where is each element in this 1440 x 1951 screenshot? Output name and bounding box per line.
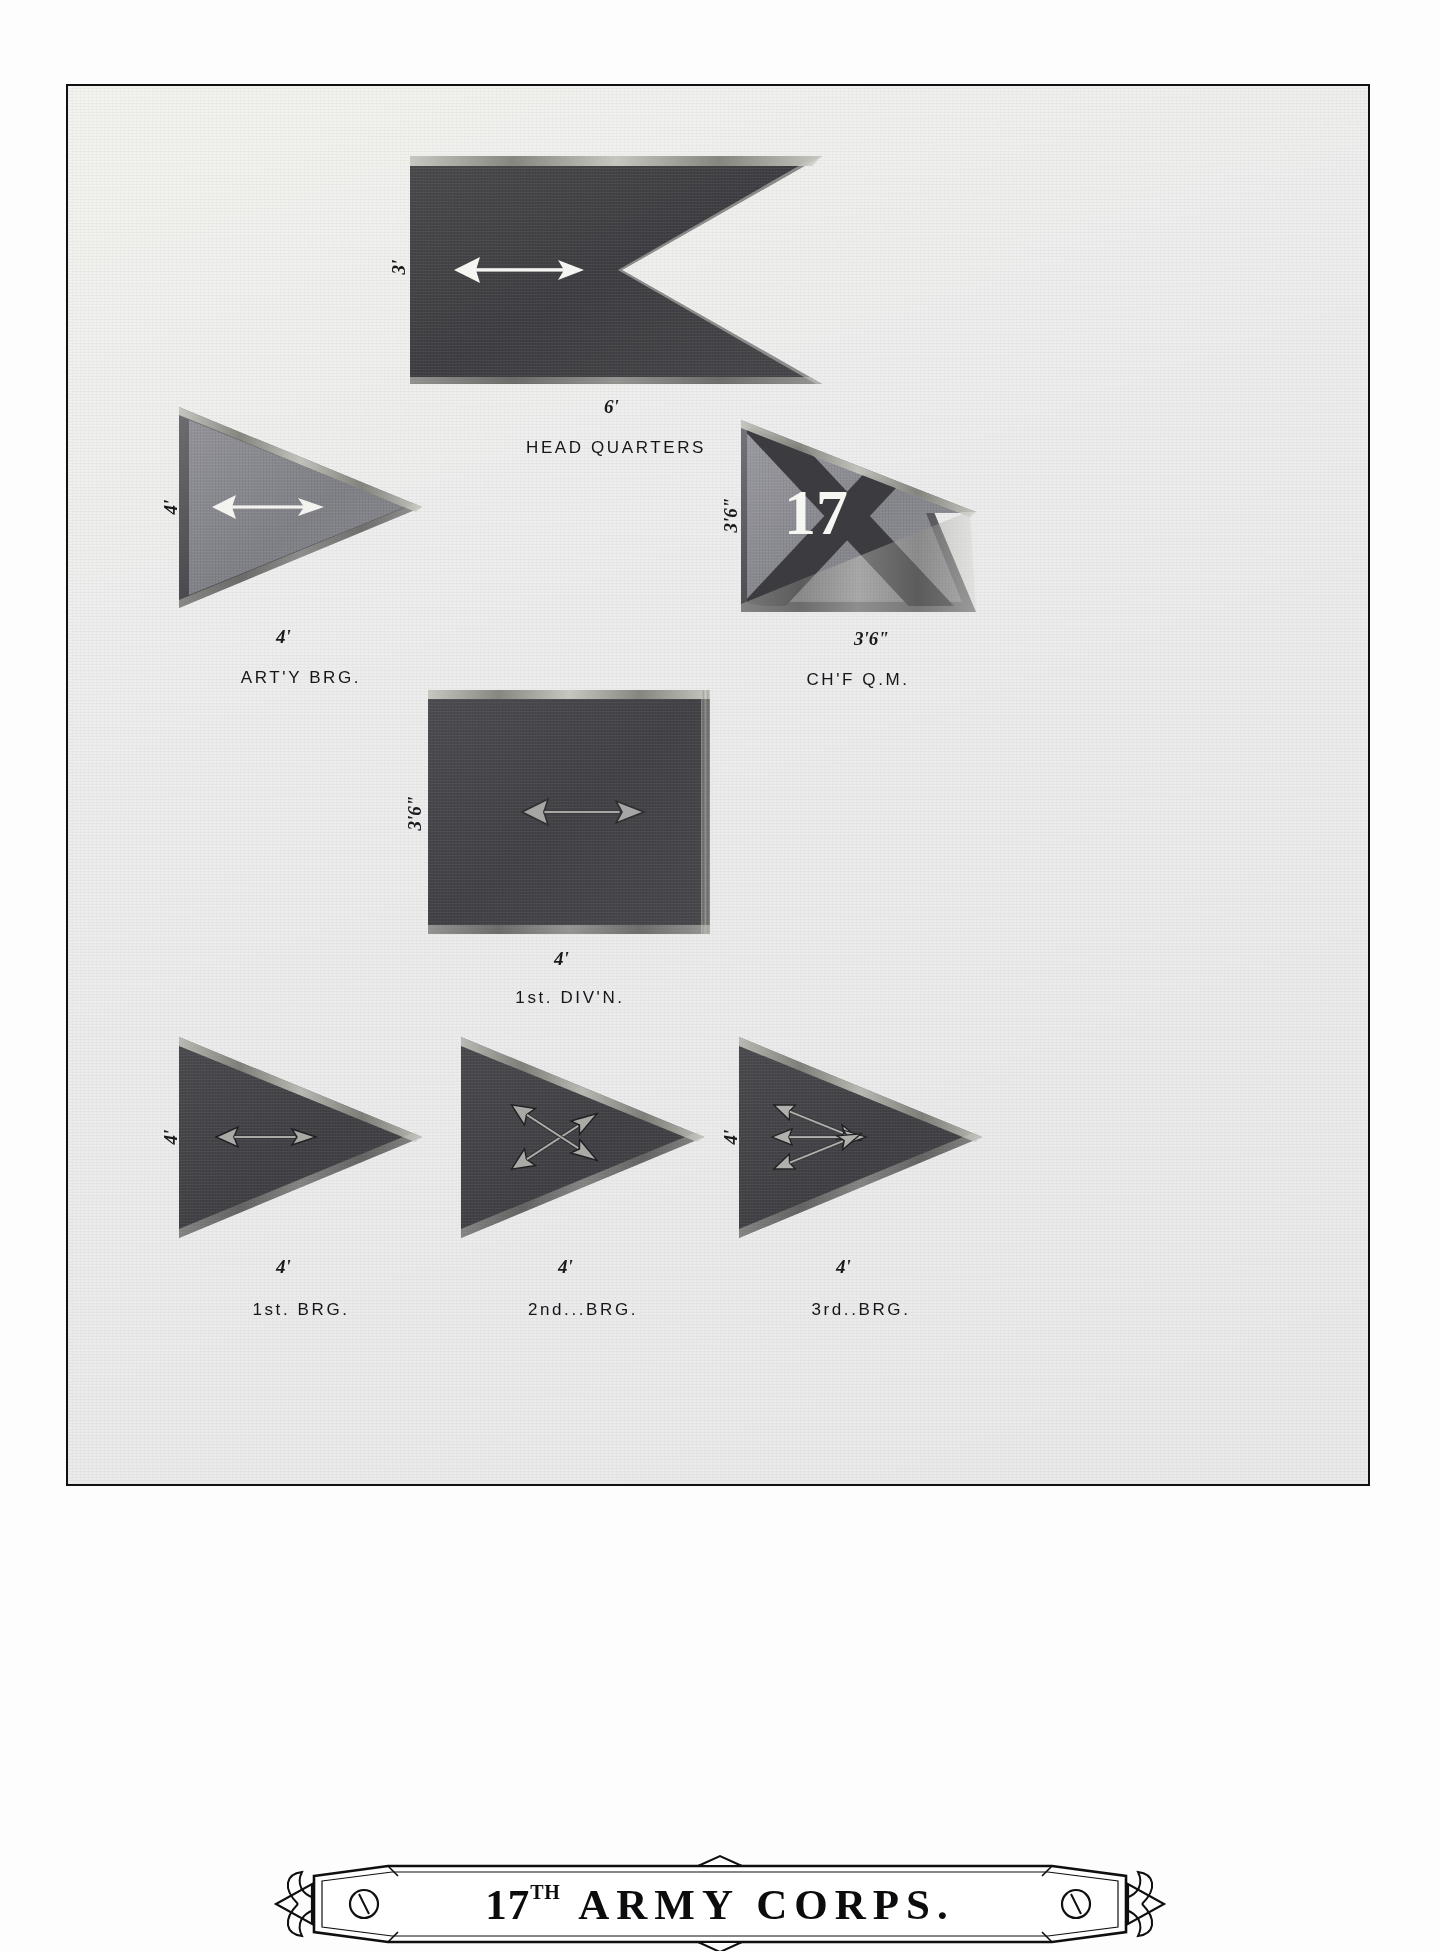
corps-numeral: 17 xyxy=(784,477,848,548)
caption-chief-quartermaster: CH'F Q.M. xyxy=(738,670,978,690)
dim-fly-first-brigade: 4' xyxy=(276,1256,291,1278)
first-brigade-flag xyxy=(176,1034,426,1244)
figure-artillery-brigade: 4' 4' ART'Y BRG. xyxy=(176,404,426,694)
caption-first-brigade: 1st. BRG. xyxy=(176,1300,426,1320)
caption-third-brigade: 3rd..BRG. xyxy=(736,1300,986,1320)
plate-title-banner: 17 TH ARMY CORPS. xyxy=(268,1858,1172,1950)
dim-fly-head-quarters: 6' xyxy=(604,396,619,418)
dim-hoist-first-brigade: 4' xyxy=(160,1130,182,1145)
dim-fly-third-brigade: 4' xyxy=(836,1256,851,1278)
dim-hoist-head-quarters: 3' xyxy=(388,260,410,275)
dim-hoist-third-brigade: 4' xyxy=(720,1130,742,1145)
dim-fly-first-division: 4' xyxy=(554,948,569,970)
third-brigade-flag xyxy=(736,1034,986,1244)
dim-fly-second-brigade: 4' xyxy=(558,1256,573,1278)
figure-third-brigade: 4' 4' 3rd..BRG. xyxy=(736,1034,986,1324)
chief-quartermaster-flag: 17 xyxy=(738,416,978,616)
first-division-flag xyxy=(424,684,716,940)
banner-ornament xyxy=(268,1858,1172,1950)
caption-second-brigade: 2nd...BRG. xyxy=(458,1300,708,1320)
figure-chief-quartermaster: 17 3'6" 3'6" CH'F Q.M. xyxy=(738,416,978,706)
figure-first-division: 3'6" 4' 1st. DIV'N. xyxy=(424,684,716,1014)
second-brigade-flag xyxy=(458,1034,708,1244)
caption-first-division: 1st. DIV'N. xyxy=(424,988,716,1008)
figure-first-brigade: 4' 4' 1st. BRG. xyxy=(176,1034,426,1324)
dim-hoist-artillery-brigade: 4' xyxy=(160,500,182,515)
head-quarters-flag xyxy=(406,144,826,394)
dim-hoist-first-division: 3'6" xyxy=(404,796,426,831)
dim-hoist-chief-quartermaster: 3'6" xyxy=(720,498,742,533)
dim-fly-artillery-brigade: 4' xyxy=(276,626,291,648)
caption-artillery-brigade: ART'Y BRG. xyxy=(176,668,426,688)
artillery-brigade-flag xyxy=(176,404,426,614)
flag-plate: 3' 6' HEAD QUARTERS xyxy=(66,84,1370,1486)
dim-fly-chief-quartermaster: 3'6" xyxy=(854,628,889,650)
figure-second-brigade: 4' 2nd...BRG. xyxy=(458,1034,708,1324)
